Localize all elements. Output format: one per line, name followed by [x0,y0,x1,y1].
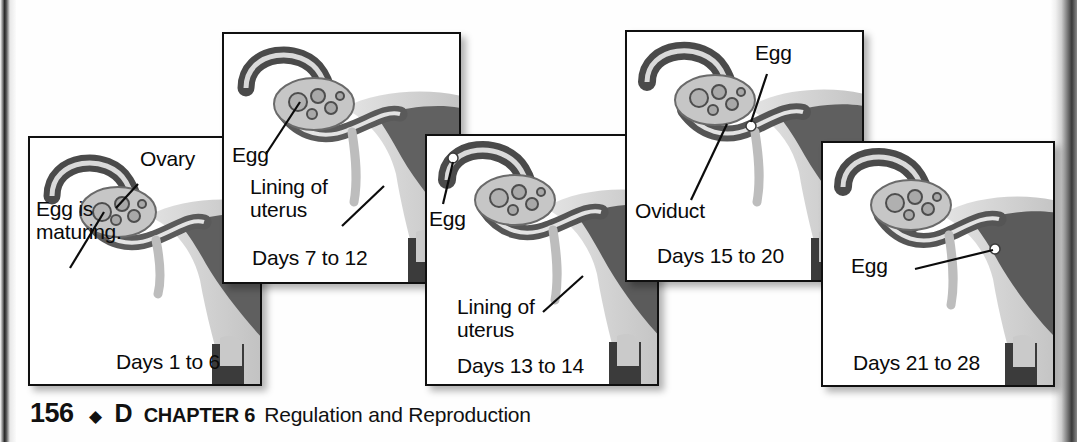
page-footer: 156 ◆ D CHAPTER 6 Regulation and Reprodu… [30,398,531,429]
label-ovary: Ovary [140,148,195,171]
panel-days-13-to-14: Egg Lining of uterus Days 13 to 14 [425,134,659,386]
label-egg: Egg [851,255,888,278]
label-egg-is-maturing: Egg is maturing. [36,198,122,243]
chapter-title: Regulation and Reproduction [264,403,531,427]
label-days-21-to-28: Days 21 to 28 [853,351,980,375]
label-egg: Egg [429,208,466,231]
label-days-1-to-6: Days 1 to 6 [116,350,220,374]
label-days-7-to-12: Days 7 to 12 [252,246,368,270]
label-lining-of-uterus: Lining of uterus [250,176,328,221]
label-lining-of-uterus: Lining of uterus [457,296,535,341]
label-days-13-to-14: Days 13 to 14 [457,354,584,378]
scanned-textbook-page: Ovary Egg is maturing. Days 1 to 6 [0,0,1077,442]
diamond-icon: ◆ [89,406,102,427]
panel-days-21-to-28: Egg Days 21 to 28 [821,141,1055,387]
label-oviduct: Oviduct [635,200,705,223]
chapter-label: CHAPTER 6 [144,404,256,427]
unit-code: D [115,399,133,428]
page-number: 156 [30,398,74,429]
female-reproductive-system-illustration [427,136,657,384]
label-days-15-to-20: Days 15 to 20 [657,244,784,268]
label-egg: Egg [755,42,792,65]
book-binding-left-edge [0,0,16,442]
label-egg: Egg [232,144,269,167]
